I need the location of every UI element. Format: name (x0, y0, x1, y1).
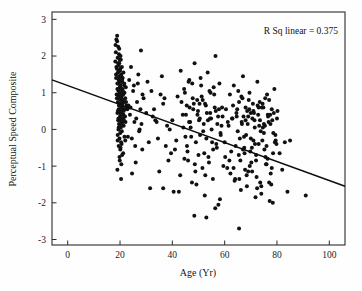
scatter-plot-figure: 020406080100 -3-2-10123 Age (Yr) Percept… (0, 0, 362, 291)
x-tick-label: 60 (220, 250, 230, 260)
y-axis-title: Perceptual Speed Composite (7, 71, 18, 187)
x-tick-label: 0 (65, 250, 70, 260)
r-squared-annotation: R Sq linear = 0.375 (264, 26, 338, 36)
plot-canvas: 020406080100 -3-2-10123 Age (Yr) Percept… (0, 0, 362, 291)
y-tick-label: -3 (38, 235, 46, 245)
x-tick-label: 100 (322, 250, 337, 260)
y-tick-label: 0 (41, 125, 46, 135)
y-tick-label: -1 (38, 162, 46, 172)
x-tick-label: 80 (272, 250, 282, 260)
y-tick-label: 2 (41, 51, 46, 61)
y-tick-label: 1 (41, 88, 46, 98)
x-tick-label: 20 (115, 250, 125, 260)
figure-background (0, 0, 362, 291)
x-axis-title: Age (Yr) (180, 267, 216, 279)
x-tick-label: 40 (168, 250, 178, 260)
y-tick-label: 3 (41, 15, 46, 25)
y-tick-label: -2 (38, 198, 46, 208)
